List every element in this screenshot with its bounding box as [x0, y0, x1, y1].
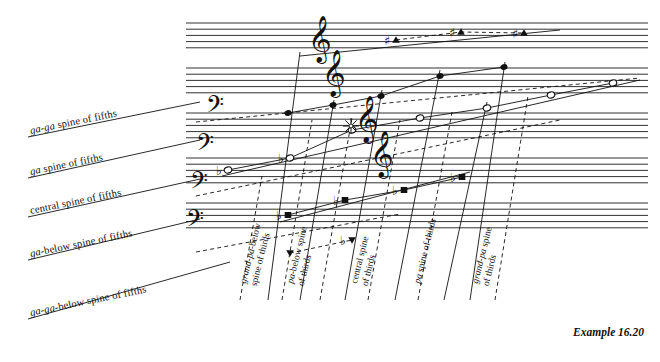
figure-caption: Example 16.20 — [573, 326, 644, 338]
fifth-spine-leaders — [0, 0, 660, 362]
leader-line-ga — [28, 140, 200, 178]
figure-root: 𝄞𝄞𝄞𝄞𝄢𝄢𝄢𝄢♯♯♯♭♭♭♭♭♭♭ ga-ga spine of fifths… — [0, 0, 660, 362]
diagram-stage: 𝄞𝄞𝄞𝄞𝄢𝄢𝄢𝄢♯♯♯♭♭♭♭♭♭♭ — [0, 0, 660, 362]
